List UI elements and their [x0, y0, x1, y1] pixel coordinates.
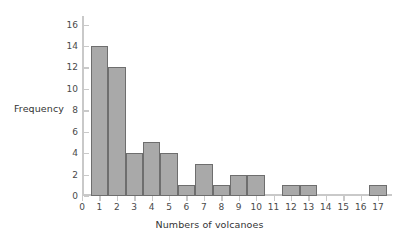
y-tick-mark: [84, 89, 89, 90]
y-axis-label: Frequency: [14, 103, 76, 114]
x-tick-label: 3: [131, 203, 137, 212]
x-tick-mark: [274, 196, 275, 201]
x-tick-label: 16: [355, 203, 366, 212]
x-tick-label: 4: [149, 203, 155, 212]
x-tick-label: 17: [372, 203, 383, 212]
y-tick-mark: [84, 46, 89, 47]
x-tick-label: 6: [184, 203, 190, 212]
y-tick-label: 16: [67, 20, 78, 29]
x-tick-mark: [152, 196, 153, 201]
bar: [195, 164, 212, 196]
x-tick-label: 8: [218, 203, 224, 212]
x-tick-mark: [308, 196, 309, 201]
bar: [247, 175, 264, 196]
bar: [230, 175, 247, 196]
x-tick-mark: [221, 196, 222, 201]
x-tick-mark: [134, 196, 135, 201]
bar: [369, 185, 386, 196]
y-tick-label: 0: [72, 192, 78, 201]
bar: [160, 153, 177, 196]
x-tick-label: 5: [166, 203, 172, 212]
x-tick-label: 13: [303, 203, 314, 212]
x-tick-mark: [204, 196, 205, 201]
y-tick-mark: [84, 196, 89, 197]
y-tick-label: 4: [72, 149, 78, 158]
y-tick-label: 6: [72, 127, 78, 136]
x-tick-mark: [99, 196, 100, 201]
bar: [178, 185, 195, 196]
x-axis-label: Numbers of volcanoes: [0, 219, 419, 230]
x-tick-mark: [117, 196, 118, 201]
x-tick-label: 12: [285, 203, 296, 212]
bar: [282, 185, 299, 196]
x-tick-mark: [186, 196, 187, 201]
x-tick-mark: [256, 196, 257, 201]
bar: [126, 153, 143, 196]
y-tick-label: 10: [67, 84, 78, 93]
x-tick-mark: [239, 196, 240, 201]
bar: [143, 142, 160, 196]
x-tick-label: 15: [338, 203, 349, 212]
x-tick-mark: [169, 196, 170, 201]
x-tick-mark: [291, 196, 292, 201]
x-tick-mark: [361, 196, 362, 201]
y-tick-mark: [84, 25, 89, 26]
x-tick-label: 9: [236, 203, 242, 212]
y-axis-line: [82, 16, 84, 196]
y-tick-mark: [84, 110, 89, 111]
bar: [91, 46, 108, 196]
histogram-figure: Frequency 0246810121416 0123456789101112…: [0, 0, 419, 239]
x-tick-label: 14: [320, 203, 331, 212]
y-tick-mark: [84, 67, 89, 68]
x-tick-label: 0: [79, 203, 85, 212]
x-tick-label: 1: [97, 203, 103, 212]
x-tick-label: 11: [268, 203, 279, 212]
y-tick-label: 12: [67, 63, 78, 72]
bar: [108, 67, 125, 196]
x-tick-label: 10: [250, 203, 261, 212]
y-tick-mark: [84, 153, 89, 154]
plot-area: 0246810121416 01234567891011121314151617: [82, 16, 392, 196]
bar: [213, 185, 230, 196]
y-tick-label: 2: [72, 170, 78, 179]
x-tick-mark: [378, 196, 379, 201]
x-tick-mark: [326, 196, 327, 201]
y-tick-label: 8: [72, 106, 78, 115]
y-tick-label: 14: [67, 42, 78, 51]
x-tick-label: 7: [201, 203, 207, 212]
x-tick-label: 2: [114, 203, 120, 212]
x-tick-mark: [82, 196, 83, 201]
x-tick-mark: [343, 196, 344, 201]
bar: [300, 185, 317, 196]
y-tick-mark: [84, 132, 89, 133]
y-tick-mark: [84, 175, 89, 176]
